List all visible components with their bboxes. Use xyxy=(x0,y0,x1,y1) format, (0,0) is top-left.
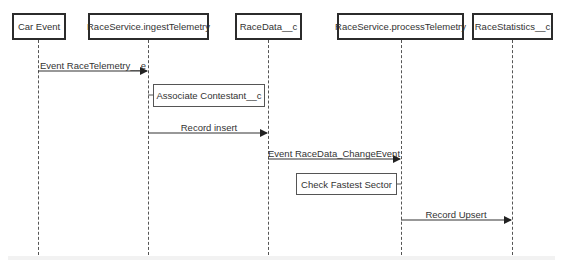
message-label-event-racedata-change: Event RaceData_ChangeEvent xyxy=(268,148,400,159)
note-label: Check Fastest Sector xyxy=(301,179,392,190)
message-arrows xyxy=(0,0,563,267)
sequence-diagram: Car Event RaceService.ingestTelemetry Ra… xyxy=(0,0,563,267)
bottom-band xyxy=(8,256,555,260)
note-associate-contestant: Associate Contestant__c xyxy=(153,84,265,107)
message-label-record-insert: Record insert xyxy=(181,122,238,133)
note-label: Associate Contestant__c xyxy=(156,90,261,101)
message-label-event-race-telemetry: Event RaceTelemetry__e xyxy=(40,60,146,71)
message-label-record-upsert: Record Upsert xyxy=(425,209,486,220)
note-check-fastest-sector: Check Fastest Sector xyxy=(296,173,397,195)
